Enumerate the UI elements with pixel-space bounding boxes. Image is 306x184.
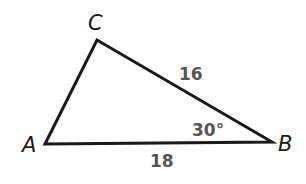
triangle-abc bbox=[45, 40, 272, 144]
angle-measure-b: 30° bbox=[192, 120, 224, 140]
side-length-bc: 16 bbox=[179, 64, 203, 84]
triangle-diagram: C A B 16 30° 18 bbox=[0, 0, 306, 184]
vertex-label-b: B bbox=[278, 132, 292, 156]
vertex-label-a: A bbox=[20, 133, 36, 157]
vertex-label-c: C bbox=[88, 11, 103, 35]
side-length-ab: 18 bbox=[150, 151, 174, 171]
